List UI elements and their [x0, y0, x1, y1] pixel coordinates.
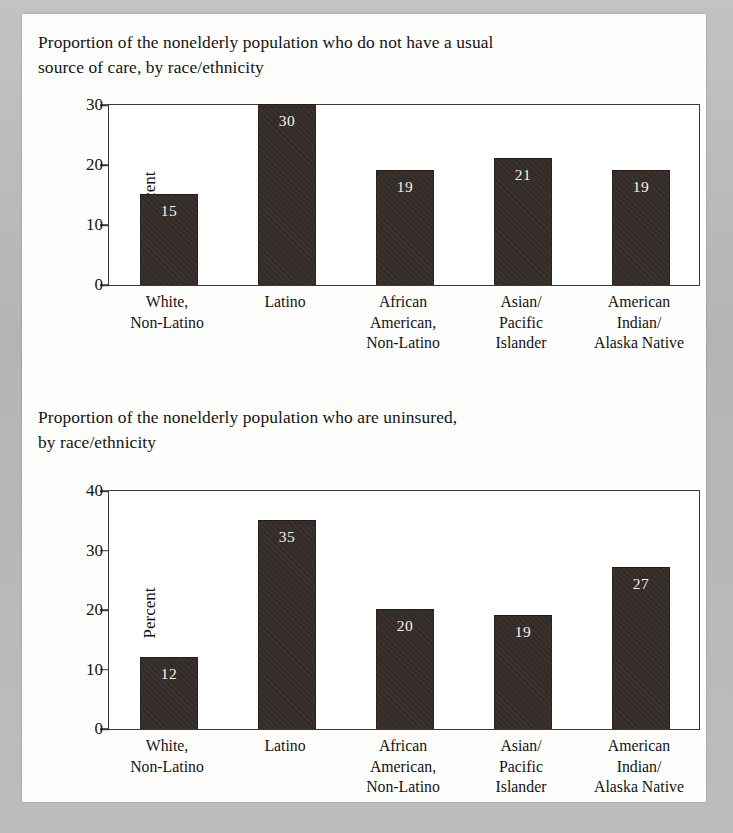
bar-value-label: 35	[259, 528, 315, 546]
bar-value-label: 20	[377, 617, 433, 635]
bar-value-label: 12	[141, 665, 197, 683]
y-tick-label: 30	[86, 541, 103, 561]
figure-2-bars: 1235201927	[109, 491, 699, 729]
bar-value-label: 19	[495, 623, 551, 641]
document-page: Proportion of the nonelderly population …	[22, 14, 706, 802]
y-tick-label: 20	[86, 155, 103, 175]
y-tick-label: 10	[86, 215, 103, 235]
bar-value-label: 21	[495, 166, 551, 184]
bar: 19	[494, 615, 552, 729]
figure-1-title: Proportion of the nonelderly population …	[38, 30, 678, 80]
figure-2-title: Proportion of the nonelderly population …	[38, 405, 678, 455]
x-axis-category-label: American Indian/ Alaska Native	[564, 736, 714, 798]
bar: 20	[376, 609, 434, 729]
y-tick-label: 30	[86, 95, 103, 115]
bar-value-label: 15	[141, 202, 197, 220]
bar-value-label: 19	[377, 178, 433, 196]
figure-1-plot-area: Percent 0102030 1530192119	[108, 104, 700, 286]
figure-2-plot-area: Percent 010203040 1235201927	[108, 490, 700, 730]
y-tick-label: 10	[86, 660, 103, 680]
bar: 19	[612, 170, 670, 285]
bar: 12	[140, 657, 198, 729]
bar: 21	[494, 158, 552, 285]
bar: 27	[612, 567, 670, 729]
bar: 30	[258, 104, 316, 285]
y-tick-label: 20	[86, 600, 103, 620]
y-tick-label: 40	[86, 481, 103, 501]
bar: 19	[376, 170, 434, 285]
bar-value-label: 19	[613, 178, 669, 196]
figure-1-bars: 1530192119	[109, 105, 699, 285]
x-axis-category-label: American Indian/ Alaska Native	[564, 292, 714, 354]
bar: 35	[258, 520, 316, 729]
bar: 15	[140, 194, 198, 285]
bar-value-label: 30	[259, 112, 315, 130]
bar-value-label: 27	[613, 575, 669, 593]
